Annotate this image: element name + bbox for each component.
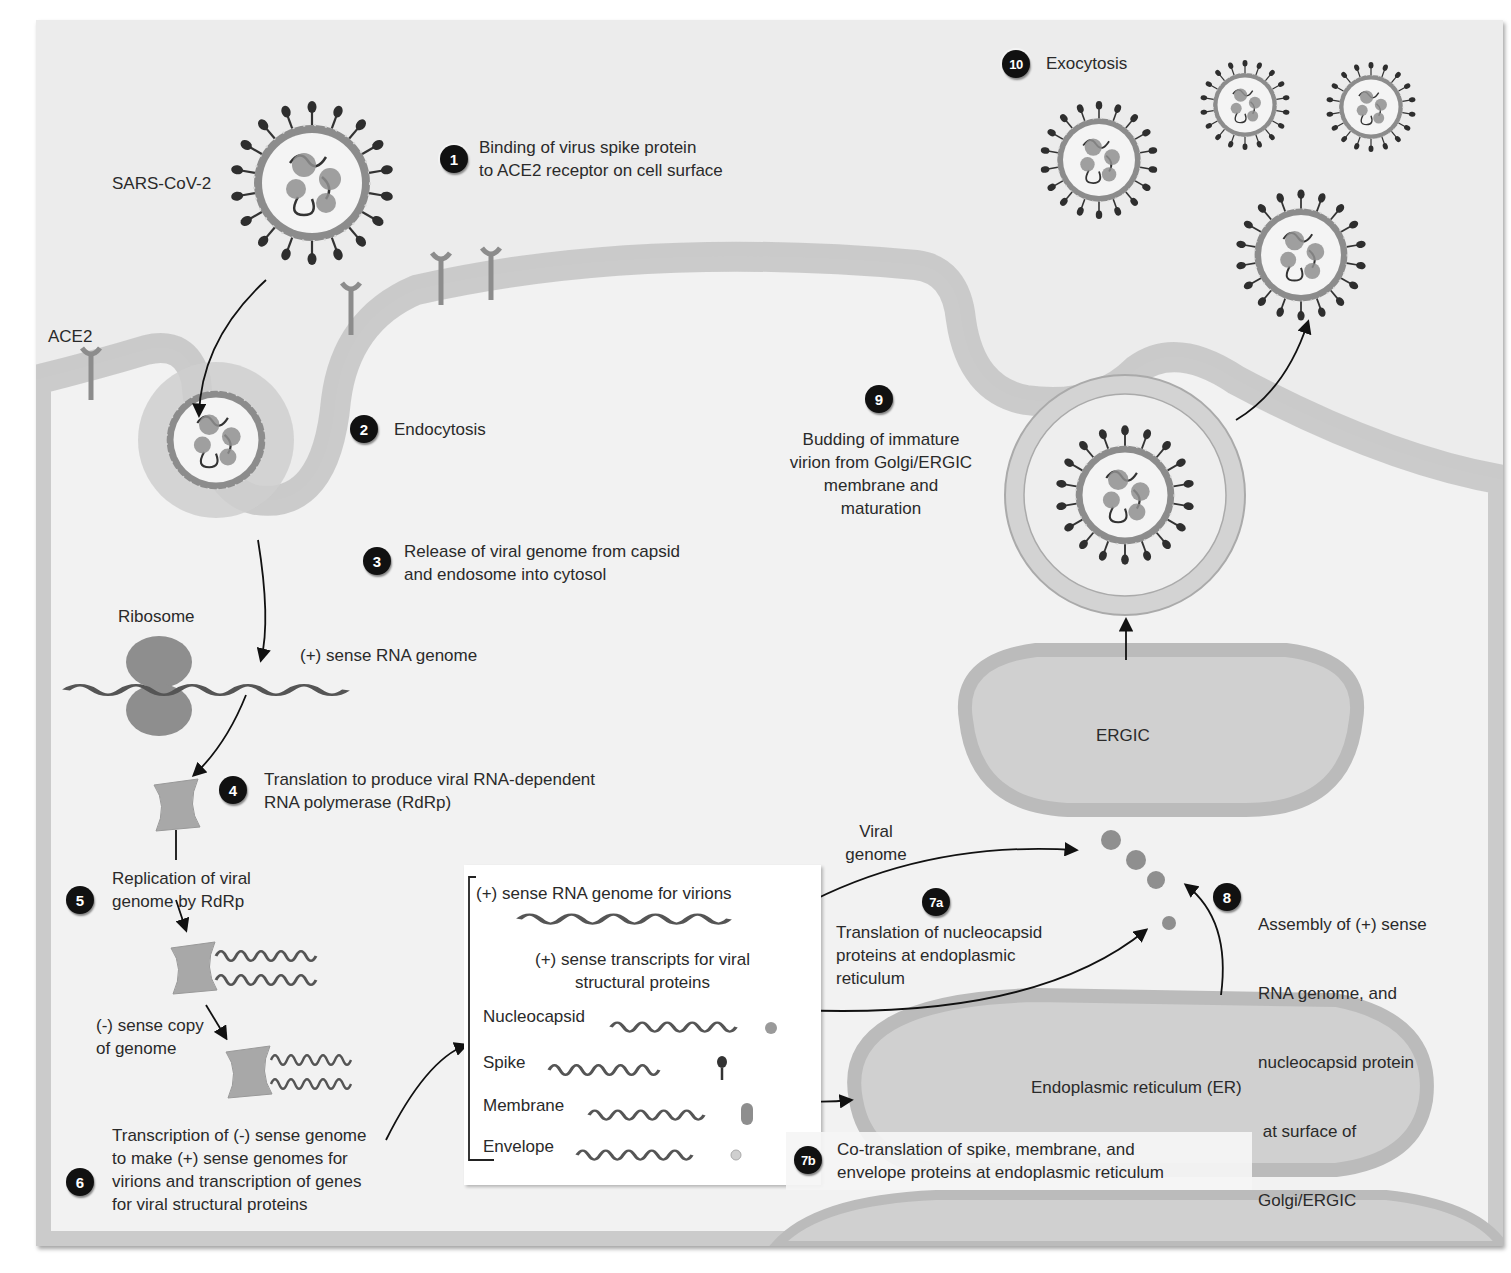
step-1-text: Binding of virus spike protein to ACE2 r… (479, 136, 723, 182)
legend-membrane: Membrane (483, 1094, 564, 1117)
ace2-label: ACE2 (48, 325, 92, 348)
step-7a-text: Translation of nucleocapsid proteins at … (836, 921, 1042, 990)
step-7a-badge: 7a (922, 888, 950, 916)
step-2-badge: 2 (350, 415, 378, 443)
plus-rna-label: (+) sense RNA genome (300, 644, 477, 667)
ergic-organelle (965, 650, 1357, 810)
viral-genome-label: Viral genome (826, 820, 926, 866)
transcripts-legend: (+) sense RNA genome for virions (+) sen… (464, 865, 821, 1185)
step-2-text: Endocytosis (394, 418, 486, 441)
er-label: Endoplasmic reticulum (ER) (1031, 1076, 1242, 1099)
step-5-badge: 5 (66, 886, 94, 914)
step-10-badge: 10 (1002, 50, 1030, 78)
step-9-badge: 9 (865, 385, 893, 413)
step-7b-text: Co-translation of spike, membrane, and e… (837, 1138, 1164, 1184)
step-3-badge: 3 (363, 547, 391, 575)
diagram-panel: SARS-CoV-2 ACE2 Ribosome (+) sense RNA g… (36, 20, 1503, 1246)
step-4-text: Translation to produce viral RNA-depende… (264, 768, 595, 814)
step-5-text: Replication of viral genome by RdRp (112, 867, 251, 913)
step-8-badge: 8 (1213, 883, 1241, 911)
step-4-badge: 4 (219, 776, 247, 804)
ergic-label: ERGIC (1096, 724, 1150, 747)
step-9-text: Budding of immature virion from Golgi/ER… (771, 428, 991, 520)
step-8-text: Assembly of (+) sense RNA genome, and nu… (1258, 867, 1427, 1246)
virus-label: SARS-CoV-2 (112, 172, 211, 195)
legend-transcripts-heading: (+) sense transcripts for viral structur… (464, 948, 821, 994)
legend-nucleocapsid: Nucleocapsid (483, 1005, 585, 1028)
legend-genome-heading: (+) sense RNA genome for virions (476, 882, 732, 905)
step-1-badge: 1 (440, 145, 468, 173)
step-6-text: Transcription of (-) sense genome to mak… (112, 1124, 366, 1216)
step-3-text: Release of viral genome from capsid and … (404, 540, 680, 586)
ribosome-label: Ribosome (118, 605, 195, 628)
step-7b-badge: 7b (794, 1146, 822, 1174)
legend-spike: Spike (483, 1051, 526, 1074)
step-10-text: Exocytosis (1046, 52, 1127, 75)
minus-copy-label: (-) sense copy of genome (96, 1014, 204, 1060)
legend-envelope: Envelope (483, 1135, 554, 1158)
step-6-badge: 6 (66, 1168, 94, 1196)
